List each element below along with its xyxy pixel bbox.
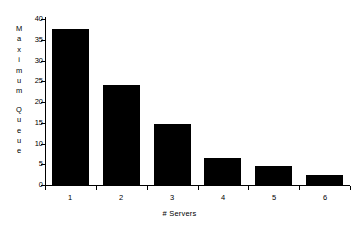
y-axis-label-char: m <box>13 66 25 76</box>
x-axis-tick-mark <box>248 186 249 190</box>
y-axis-label-char: e <box>13 146 25 156</box>
y-axis-label-char: a <box>13 34 25 44</box>
y-axis-label-char: e <box>13 126 25 136</box>
y-axis-label-char: u <box>13 136 25 146</box>
bar-series <box>45 19 350 185</box>
y-axis-label-char: M <box>13 24 25 34</box>
bar <box>204 158 241 185</box>
x-axis-tick-mark <box>198 186 199 190</box>
x-axis-tick-mark <box>350 186 351 190</box>
y-axis-tick-labels: 0510152025303540 <box>26 0 43 234</box>
caption-sliver <box>22 229 322 234</box>
x-axis-label: # Servers <box>0 209 359 218</box>
y-axis-label-char: x <box>13 45 25 55</box>
x-axis-tick-label: 4 <box>210 193 236 202</box>
y-axis-label: MaximumQueue <box>13 24 25 157</box>
x-axis-tick-label: 5 <box>261 193 287 202</box>
x-axis-tick-label: 2 <box>108 193 134 202</box>
x-axis-tick-mark <box>96 186 97 190</box>
x-axis-tick-mark <box>147 186 148 190</box>
x-axis-tick-label: 1 <box>57 193 83 202</box>
y-axis-label-char: i <box>13 55 25 65</box>
bar <box>154 124 191 185</box>
y-axis-label-char: u <box>13 115 25 125</box>
bar <box>52 29 89 185</box>
y-axis-label-char: Q <box>13 105 25 115</box>
x-axis-tick-mark <box>299 186 300 190</box>
bar-chart-figure: MaximumQueue 0510152025303540 123456 # S… <box>0 0 359 234</box>
bar <box>306 175 343 185</box>
bar <box>103 85 140 185</box>
x-axis-tick-label: 6 <box>312 193 338 202</box>
y-axis-label-char: m <box>13 86 25 96</box>
x-axis-tick-mark <box>45 186 46 190</box>
bar <box>255 166 292 185</box>
x-axis-tick-label: 3 <box>159 193 185 202</box>
y-axis-label-gap <box>13 97 25 105</box>
y-axis-label-char: u <box>13 76 25 86</box>
